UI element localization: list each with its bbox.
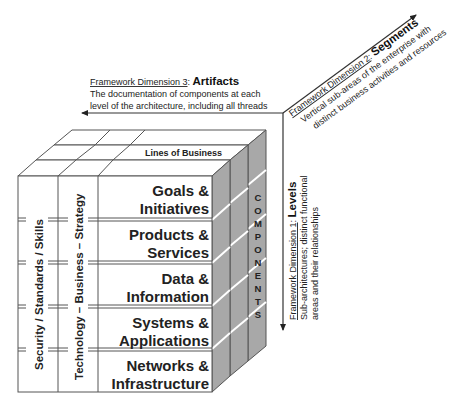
svg-text:T: T (255, 296, 261, 307)
segments-dimension-label: Framework Dimension 2: Segments Vertical… (286, 6, 449, 138)
svg-text:E: E (255, 270, 261, 281)
svg-text:P: P (255, 231, 262, 242)
artifacts-desc-1: The documentation of components at each (90, 89, 261, 99)
level-networks-infrastructure: Networks & Infrastructure (111, 357, 209, 392)
svg-text:O: O (254, 205, 261, 216)
artifacts-dimension-label: Framework Dimension 3: Artifacts The doc… (90, 75, 268, 111)
svg-text:O: O (254, 244, 261, 255)
svg-text:Goals &: Goals & (152, 182, 209, 199)
segments-desc-1: Vertical sub-areas of the enterprise wit… (299, 24, 433, 125)
svg-text:Systems &: Systems & (132, 314, 209, 331)
svg-text:S: S (255, 309, 261, 320)
svg-text:N: N (255, 257, 262, 268)
ea-framework-diagram: Framework Dimension 3: Artifacts The doc… (0, 0, 456, 417)
levels-dimension-label: Framework Dimension 1: Levels Sub-archit… (286, 175, 320, 320)
svg-text:N: N (255, 283, 262, 294)
svg-text:Applications: Applications (119, 332, 209, 349)
level-systems-applications: Systems & Applications (119, 314, 209, 349)
svg-text:Networks &: Networks & (126, 357, 209, 374)
svg-text:Infrastructure: Infrastructure (111, 375, 209, 392)
svg-text:M: M (254, 218, 262, 229)
svg-text:Information: Information (127, 288, 210, 305)
thread-technology-business-strategy: Technology – Business – Strategy (73, 193, 85, 380)
artifacts-desc-2: level of the architecture, including all… (90, 101, 268, 111)
thread-security-standards-skills: Security / Standards / Skills (33, 219, 45, 370)
lines-of-business-label: Lines of Business (145, 148, 222, 158)
svg-text:Products &: Products & (129, 226, 209, 243)
svg-text:Data &: Data & (161, 270, 209, 287)
levels-heading: Framework Dimension 1: Levels (286, 182, 298, 320)
levels-desc-1: Sub-architectures; distinct functional (299, 175, 309, 320)
svg-text:C: C (255, 192, 262, 203)
svg-text:Initiatives: Initiatives (140, 200, 209, 217)
levels-desc-2: areas and their relationships (310, 206, 320, 320)
artifacts-heading: Framework Dimension 3: Artifacts (90, 75, 239, 87)
svg-text:Services: Services (147, 244, 209, 261)
